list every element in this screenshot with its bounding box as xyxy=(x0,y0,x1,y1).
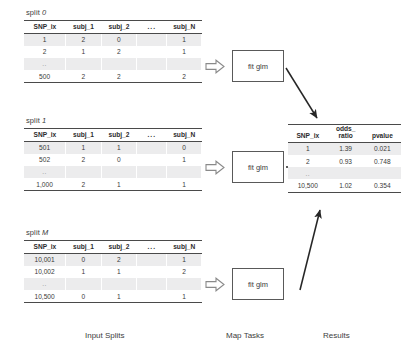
cell-snp-ix: 501 xyxy=(24,141,66,154)
table-row: 2 1 2 1 xyxy=(24,46,202,58)
cell-subj-n: 1 xyxy=(167,253,202,266)
split-m-table: SNP_ix subj_1 subj_2 ... subj_N 10,001 0… xyxy=(24,240,202,304)
map-task-label: fit glm xyxy=(248,280,268,289)
column-header-subj-1: subj_1 xyxy=(66,240,102,253)
table-row-ellipsis: .. xyxy=(288,167,401,179)
cell-subj-2: 0 xyxy=(101,154,137,166)
cell-odds-ratio: 0.93 xyxy=(328,155,364,167)
cell-subj-1: 1 xyxy=(66,141,102,154)
split-1-title: split 1 xyxy=(26,116,202,125)
cell-pvalue: 0.021 xyxy=(364,142,401,155)
caption-results: Results xyxy=(323,331,350,340)
cell-subj-1: 0 xyxy=(66,290,102,303)
table-row-ellipsis: .. xyxy=(24,278,202,290)
table-row: 500 2 2 2 xyxy=(24,70,202,83)
table-header-row: SNP_ix subj_1 subj_2 ... subj_N xyxy=(24,240,202,253)
table-row: 10,500 1.02 0.354 xyxy=(288,179,401,192)
column-header-subj-2: subj_2 xyxy=(101,128,137,141)
caption-input-splits: Input Splits xyxy=(85,331,125,340)
cell-snp-ix: 10,002 xyxy=(24,266,66,278)
column-header-snp-ix: SNP_ix xyxy=(24,240,66,253)
input-split-1: split 1 SNP_ix subj_1 subj_2 ... subj_N … xyxy=(24,116,202,191)
column-header-ellipsis: ... xyxy=(137,240,167,253)
column-header-subj-n: subj_N xyxy=(167,240,202,253)
cell-subj-2: 1 xyxy=(101,178,137,191)
cell-subj-2: 1 xyxy=(101,290,137,303)
table-row: 1 1.39 0.021 xyxy=(288,142,401,155)
cell-ellipsis xyxy=(137,46,167,58)
split-m-title: split M xyxy=(26,228,202,237)
results-group: SNP_ix odds_ratio pvalue 1 1.39 0.021 2 … xyxy=(288,124,401,193)
cell-subj-n: 1 xyxy=(167,178,202,191)
column-header-snp-ix: SNP_ix xyxy=(24,128,66,141)
cell-subj-1: 2 xyxy=(66,33,102,46)
cell-subj-2 xyxy=(101,166,137,178)
cell-subj-2: 2 xyxy=(101,70,137,83)
cell-subj-n: 0 xyxy=(167,141,202,154)
table-header-row: SNP_ix subj_1 subj_2 ... subj_N xyxy=(24,20,202,33)
cell-subj-n xyxy=(167,166,202,178)
map-task-box-0[interactable]: fit glm xyxy=(232,50,284,82)
cell-ellipsis xyxy=(137,178,167,191)
column-header-subj-1: subj_1 xyxy=(66,20,102,33)
cell-subj-1: 2 xyxy=(66,178,102,191)
cell-snp-ix: .. xyxy=(24,166,66,178)
cell-snp-ix: .. xyxy=(288,167,328,179)
cell-subj-n: 1 xyxy=(167,46,202,58)
split-1-table: SNP_ix subj_1 subj_2 ... subj_N 501 1 1 … xyxy=(24,128,202,192)
column-header-pvalue: pvalue xyxy=(364,125,401,143)
results-table: SNP_ix odds_ratio pvalue 1 1.39 0.021 2 … xyxy=(288,124,401,193)
cell-pvalue xyxy=(364,167,401,179)
column-header-subj-n: subj_N xyxy=(167,128,202,141)
map-task-label: fit glm xyxy=(248,163,268,172)
cell-subj-1 xyxy=(66,278,102,290)
cell-ellipsis xyxy=(137,70,167,83)
arrow-mapm-to-results xyxy=(300,210,320,290)
table-row: 10,001 0 2 1 xyxy=(24,253,202,266)
cell-subj-n: 1 xyxy=(167,33,202,46)
cell-subj-1: 0 xyxy=(66,253,102,266)
cell-subj-n: 2 xyxy=(167,70,202,83)
cell-subj-2: 2 xyxy=(101,46,137,58)
column-header-subj-1: subj_1 xyxy=(66,128,102,141)
cell-subj-n xyxy=(167,278,202,290)
cell-ellipsis xyxy=(137,141,167,154)
table-header-row: SNP_ix subj_1 subj_2 ... subj_N xyxy=(24,128,202,141)
arrow-map0-to-results xyxy=(286,68,317,118)
cell-subj-n: 1 xyxy=(167,290,202,303)
block-arrow-icon-split-1 xyxy=(205,160,225,175)
cell-subj-n: 1 xyxy=(167,154,202,166)
cell-snp-ix: 1,000 xyxy=(24,178,66,191)
cell-odds-ratio: 1.39 xyxy=(328,142,364,155)
split-0-table: SNP_ix subj_1 subj_2 ... subj_N 1 2 0 1 … xyxy=(24,20,202,84)
table-row: 10,500 0 1 1 xyxy=(24,290,202,303)
cell-subj-2 xyxy=(101,278,137,290)
cell-snp-ix: 1 xyxy=(24,33,66,46)
map-task-box-m[interactable]: fit glm xyxy=(232,268,284,300)
cell-subj-1 xyxy=(66,58,102,70)
block-arrow-icon-split-m xyxy=(205,277,225,292)
column-header-subj-n: subj_N xyxy=(167,20,202,33)
cell-snp-ix: .. xyxy=(24,58,66,70)
diagram-canvas: split 0 SNP_ix subj_1 subj_2 ... subj_N … xyxy=(0,0,409,355)
cell-subj-2: 1 xyxy=(101,266,137,278)
table-row-ellipsis: .. xyxy=(24,166,202,178)
table-row: 1 2 0 1 xyxy=(24,33,202,46)
cell-ellipsis xyxy=(137,278,167,290)
cell-subj-2: 0 xyxy=(101,33,137,46)
map-task-box-1[interactable]: fit glm xyxy=(232,151,284,183)
cell-snp-ix: 1 xyxy=(288,142,328,155)
cell-subj-1: 2 xyxy=(66,154,102,166)
cell-subj-1: 1 xyxy=(66,266,102,278)
cell-subj-n: 2 xyxy=(167,266,202,278)
cell-odds-ratio xyxy=(328,167,364,179)
map-task-label: fit glm xyxy=(248,62,268,71)
cell-snp-ix: 10,001 xyxy=(24,253,66,266)
cell-subj-2: 2 xyxy=(101,253,137,266)
caption-map-tasks: Map Tasks xyxy=(226,331,264,340)
cell-snp-ix: 2 xyxy=(288,155,328,167)
cell-snp-ix: 10,500 xyxy=(24,290,66,303)
cell-odds-ratio: 1.02 xyxy=(328,179,364,192)
cell-pvalue: 0.748 xyxy=(364,155,401,167)
block-arrow-icon-split-0 xyxy=(205,59,225,74)
